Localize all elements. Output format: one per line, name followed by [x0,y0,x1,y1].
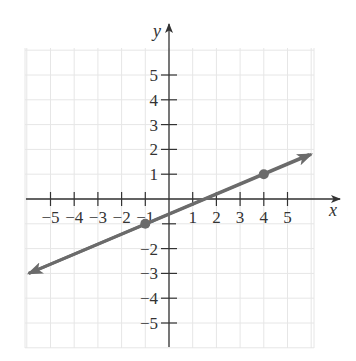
y-tick-label: −2 [140,240,158,259]
coordinate-plane: −5−4−3−2−112345 54321−2−3−4−5 x y [0,0,356,361]
y-tick-label: −4 [140,289,159,308]
x-tick-label: −5 [41,208,59,227]
y-tick-label: 3 [150,116,159,135]
y-tick-label: 4 [150,91,159,110]
y-tick-label: 2 [150,140,159,159]
x-tick-label: 3 [236,208,245,227]
data-point [259,169,269,179]
x-tick-label: −3 [89,208,107,227]
data-point [140,219,150,229]
y-tick-label: 1 [150,165,159,184]
x-tick-label: 1 [188,208,197,227]
x-tick-label: 2 [212,208,221,227]
y-tick-label: 5 [150,66,159,85]
x-tick-label: 4 [260,208,269,227]
y-tick-label: −3 [140,264,158,283]
x-tick-label: −4 [65,208,84,227]
x-tick-label: 5 [283,208,292,227]
y-axis-label: y [151,21,161,41]
x-tick-label: −2 [113,208,131,227]
x-axis-label: x [328,200,337,220]
y-tick-label: −5 [140,314,158,333]
